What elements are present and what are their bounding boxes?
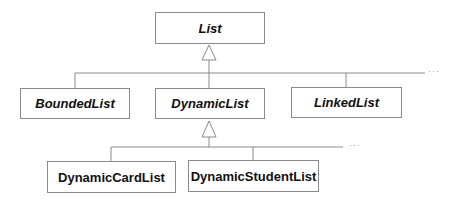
ellipsis-more-subclasses-bottom: ··· [349,140,361,150]
generalization-arrow-list [202,45,216,60]
class-boundedlist: BoundedList [20,88,130,119]
class-dynamicstudentlist: DynamicStudentList [188,160,319,192]
class-label: DynamicCardList [58,170,165,185]
class-label: BoundedList [35,96,114,111]
class-label: LinkedList [314,95,379,110]
class-linkedlist: LinkedList [291,87,402,118]
ellipsis-more-subclasses-top: ··· [428,66,440,76]
class-dynamiccardlist: DynamicCardList [47,161,176,193]
class-label: DynamicList [171,96,248,111]
class-label: List [198,21,221,36]
class-dynamiclist: DynamicList [155,88,265,119]
generalization-arrow-dynamiclist [202,121,216,137]
class-label: DynamicStudentList [191,169,317,184]
class-list: List [155,12,265,44]
